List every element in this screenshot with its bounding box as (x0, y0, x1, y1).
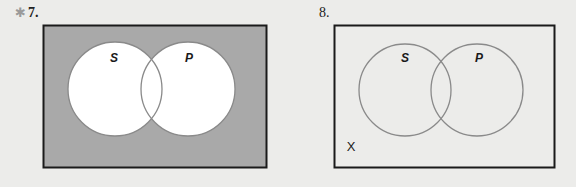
x-mark: X (347, 139, 356, 154)
problem-7: ✱7. S P (0, 0, 288, 187)
venn-diagram-7: S P (0, 0, 288, 187)
universe-rect (335, 26, 555, 168)
label-p: P (475, 51, 484, 65)
label-p: P (185, 51, 194, 65)
label-s: S (110, 51, 118, 65)
venn-diagram-8: S P X (288, 0, 576, 187)
problem-8: 8. S P X (288, 0, 576, 187)
label-s: S (401, 51, 409, 65)
